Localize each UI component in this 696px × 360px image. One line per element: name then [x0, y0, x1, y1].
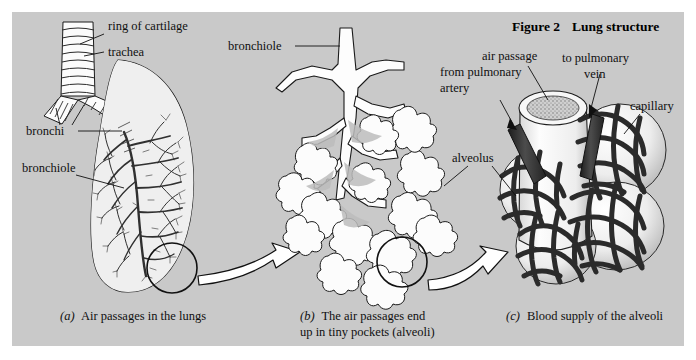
label-from-pulmonary-artery-line2: artery	[440, 81, 470, 95]
svg-text:(b) The air passages e: (b) The air passages end	[300, 309, 426, 323]
caption-b-line1: The air passages end	[321, 309, 426, 323]
air-passage-lumen	[527, 96, 579, 120]
caption-a-marker: (a)	[60, 309, 75, 323]
panel-b-labels: bronchiole	[228, 39, 340, 53]
caption-c-marker: (c)	[506, 309, 520, 323]
label-from-pulmonary-artery-line1: from pulmonary	[440, 65, 522, 79]
label-to-pulmonary-vein-line1: to pulmonary	[562, 51, 630, 65]
lung-structure-figure: ring of cartilage trachea bronchi bronch…	[0, 0, 696, 360]
panel-a-caption: (a) Air passages in the lungs	[60, 309, 206, 323]
trachea-tube	[61, 22, 95, 96]
panel-c-caption: (c) Blood supply of the alveoli	[506, 309, 664, 323]
svg-text:(a) Air passages in th: (a) Air passages in the lungs	[60, 309, 206, 323]
zoom-arrow-a-to-b	[198, 243, 300, 285]
figure-title-text: Lung structure	[572, 19, 659, 34]
caption-c-text: Blood supply of the alveoli	[527, 309, 664, 323]
panel-b-caption: (b) The air passages end up in tiny pock…	[300, 309, 435, 339]
panel-a-diagram	[44, 22, 200, 296]
panel-b-diagram	[276, 28, 458, 309]
label-ring-of-cartilage: ring of cartilage	[108, 19, 188, 33]
caption-b-line2: up in tiny pockets (alveoli)	[300, 325, 435, 339]
figure-title-prefix: Figure 2	[512, 19, 560, 34]
panel-c-diagram	[500, 91, 666, 284]
leader-bronchi-right	[72, 105, 84, 125]
svg-text:(c) Blood supply of th: (c) Blood supply of the alveoli	[506, 309, 664, 323]
label-bronchi: bronchi	[26, 124, 65, 138]
label-trachea: trachea	[108, 45, 145, 59]
label-bronchiole-b: bronchiole	[228, 39, 282, 53]
label-bronchiole-a: bronchiole	[22, 161, 76, 175]
leader-alveolus-left	[444, 166, 468, 186]
arrowhead-from-pulmonary-artery	[507, 118, 517, 130]
caption-a-text: Air passages in the lungs	[81, 309, 206, 323]
left-bronchus	[44, 96, 78, 124]
label-alveolus: alveolus	[452, 151, 494, 165]
figure-root: ring of cartilage trachea bronchi bronch…	[0, 0, 696, 360]
label-air-passage: air passage	[482, 49, 538, 63]
caption-b-marker: (b)	[300, 309, 315, 323]
label-to-pulmonary-vein-line2: vein	[584, 67, 606, 81]
figure-title: Figure 2 Lung structure	[512, 19, 659, 34]
label-capillary: capillary	[630, 99, 674, 113]
